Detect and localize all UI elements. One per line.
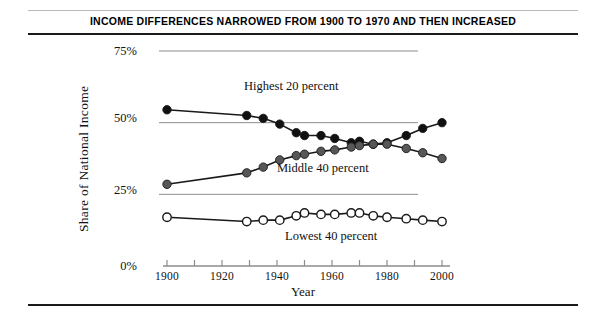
data-point <box>355 141 363 149</box>
data-point <box>383 140 391 148</box>
data-point <box>438 217 446 225</box>
data-point <box>317 147 325 155</box>
data-point <box>243 169 251 177</box>
data-point <box>163 213 171 221</box>
data-point <box>317 210 325 218</box>
data-point <box>292 151 300 159</box>
data-point <box>163 106 171 114</box>
y-tick-label-50: 50% <box>97 111 137 126</box>
data-point <box>331 146 339 154</box>
data-point <box>419 124 427 132</box>
data-point <box>300 131 308 139</box>
data-point <box>243 111 251 119</box>
x-tick-label-1920: 1920 <box>197 270 247 282</box>
data-point <box>402 144 410 152</box>
bottom-divider-rule <box>28 304 578 306</box>
data-point <box>292 212 300 220</box>
plot-area: Share of National Income Year 75% 50% 25… <box>0 0 606 320</box>
x-tick-label-1900: 1900 <box>142 270 192 282</box>
x-tick-label-1960: 1960 <box>307 270 357 282</box>
x-tick-label-2000: 2000 <box>417 270 467 282</box>
data-point <box>243 217 251 225</box>
data-point <box>331 134 339 142</box>
data-point <box>259 114 267 122</box>
data-point <box>419 216 427 224</box>
data-point <box>347 143 355 151</box>
data-point <box>300 209 308 217</box>
x-axis-title: Year <box>0 284 606 300</box>
data-point <box>276 120 284 128</box>
data-point <box>419 149 427 157</box>
data-point <box>259 216 267 224</box>
data-point <box>355 209 363 217</box>
data-point <box>438 118 446 126</box>
data-point <box>292 129 300 137</box>
data-point <box>347 209 355 217</box>
data-point <box>383 213 391 221</box>
y-tick-label-75: 75% <box>97 44 137 59</box>
x-tick-label-1980: 1980 <box>362 270 412 282</box>
figure-container: INCOME DIFFERENCES NARROWED FROM 1900 TO… <box>0 0 606 320</box>
data-point <box>402 131 410 139</box>
data-point <box>331 210 339 218</box>
data-point <box>438 154 446 162</box>
series-label-middle: Middle 40 percent <box>277 161 369 176</box>
data-point <box>300 150 308 158</box>
series-label-highest: Highest 20 percent <box>244 79 338 94</box>
data-point <box>402 215 410 223</box>
data-point <box>259 163 267 171</box>
data-point <box>163 180 171 188</box>
data-point <box>317 131 325 139</box>
data-point <box>369 212 377 220</box>
y-tick-label-0: 0% <box>97 259 137 274</box>
x-tick-label-1940: 1940 <box>252 270 302 282</box>
data-point <box>276 216 284 224</box>
y-tick-label-25: 25% <box>97 183 137 198</box>
data-point <box>369 140 377 148</box>
y-axis-title: Share of National Income <box>76 86 92 232</box>
series-label-lowest: Lowest 40 percent <box>285 229 377 244</box>
